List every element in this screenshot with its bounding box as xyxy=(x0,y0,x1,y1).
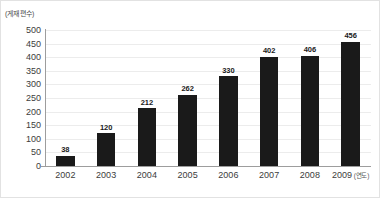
y-axis-tick-label: 50 xyxy=(3,147,41,157)
x-axis-tick-label: 2005 xyxy=(167,170,208,180)
gridline xyxy=(45,98,371,99)
y-axis-tick-label: 300 xyxy=(3,79,41,89)
bar-value-label: 38 xyxy=(61,146,69,154)
gridline xyxy=(45,152,371,153)
bar-group[interactable]: 120 xyxy=(97,30,116,166)
bar[interactable] xyxy=(97,133,116,166)
bar-value-label: 406 xyxy=(304,46,316,54)
x-axis-tick-label: 2004 xyxy=(127,170,168,180)
bar-value-label: 456 xyxy=(345,32,357,40)
y-axis-line xyxy=(45,29,46,167)
bar-group[interactable]: 456 xyxy=(341,30,360,166)
y-axis-tick-label: 0 xyxy=(3,161,41,171)
bar[interactable] xyxy=(301,56,320,166)
bar-group[interactable]: 406 xyxy=(301,30,320,166)
bar[interactable] xyxy=(341,42,360,166)
gridline xyxy=(45,57,371,58)
x-axis-tick-label: 2003 xyxy=(86,170,127,180)
gridline xyxy=(45,30,371,31)
bar-value-label: 330 xyxy=(222,67,234,75)
bar-group[interactable]: 38 xyxy=(56,30,75,166)
y-axis-tick-labels: 050100150200250300350400450500 xyxy=(1,30,41,166)
bar[interactable] xyxy=(219,76,238,166)
x-axis-tick-label: 2002 xyxy=(45,170,86,180)
y-axis-tick-label: 500 xyxy=(3,25,41,35)
y-axis-tick-label: 350 xyxy=(3,66,41,76)
bar-chart-figure: (게재 편수) 050100150200250300350400450500 3… xyxy=(0,0,380,198)
y-axis-tick-label: 100 xyxy=(3,134,41,144)
bar-value-label: 262 xyxy=(182,85,194,93)
bar-value-label: 120 xyxy=(100,124,112,132)
y-axis-tick-label: 200 xyxy=(3,107,41,117)
x-axis-tick-labels: 20022003200420052006200720082009 (연도) xyxy=(45,170,371,186)
bar-group[interactable]: 262 xyxy=(178,30,197,166)
x-axis-tick-label: 2009 (연도) xyxy=(324,170,377,180)
bar[interactable] xyxy=(178,95,197,166)
bar-group[interactable]: 402 xyxy=(260,30,279,166)
plot-area: 38120212262330402406456 xyxy=(45,30,371,166)
bar[interactable] xyxy=(260,57,279,166)
gridline xyxy=(45,71,371,72)
y-axis-tick-label: 150 xyxy=(3,120,41,130)
bar-group[interactable]: 330 xyxy=(219,30,238,166)
gridline xyxy=(45,84,371,85)
bar-group[interactable]: 212 xyxy=(138,30,157,166)
gridline xyxy=(45,139,371,140)
x-axis-tick-label: 2007 xyxy=(249,170,290,180)
gridline xyxy=(45,44,371,45)
y-axis-unit-caption: (게재 편수) xyxy=(5,8,34,18)
bar[interactable] xyxy=(56,156,75,166)
y-axis-tick-label: 450 xyxy=(3,39,41,49)
gridline xyxy=(45,112,371,113)
bar-value-label: 212 xyxy=(141,99,153,107)
bar[interactable] xyxy=(138,108,157,166)
y-axis-tick-label: 400 xyxy=(3,52,41,62)
x-axis-line xyxy=(41,166,371,167)
x-axis-tick-label: 2006 xyxy=(208,170,249,180)
x-axis-unit-caption: (연도) xyxy=(352,172,369,179)
gridline xyxy=(45,125,371,126)
y-axis-tick-label: 250 xyxy=(3,93,41,103)
bar-value-label: 402 xyxy=(263,47,275,55)
